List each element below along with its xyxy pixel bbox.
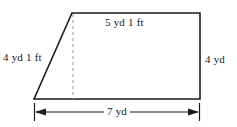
dimension-arrowhead-left-icon bbox=[35, 109, 46, 116]
label-top-side: 5 yd 1 ft bbox=[105, 17, 144, 28]
label-right-side: 4 yd bbox=[205, 54, 225, 65]
label-bottom-dimension: 7 yd bbox=[104, 106, 130, 117]
dimension-arrowhead-right-icon bbox=[188, 109, 199, 116]
geometry-figure: 5 yd 1 ft 4 yd 1 ft 4 yd 7 yd bbox=[0, 0, 237, 127]
label-left-side: 4 yd 1 ft bbox=[3, 52, 42, 63]
